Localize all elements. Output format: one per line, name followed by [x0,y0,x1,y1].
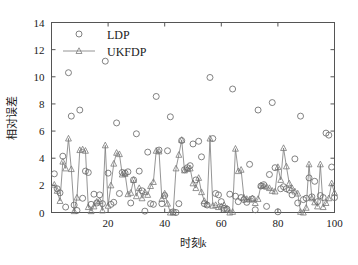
ldp-data-point [266,172,272,178]
legend-label: LDP [107,28,130,42]
ldp-data-point [114,120,120,126]
ldp-data-point [51,171,57,177]
ldp-data-point [116,191,122,197]
x-tick-label: 40 [159,217,171,229]
ldp-data-point [142,208,148,214]
x-tick-label: 100 [326,217,343,229]
y-tick-label: 12 [34,44,45,56]
chart-figure: 02468101214 20406080100 LDPUKFDP 时刻k相对误差 [0,0,358,265]
ldp-data-point [176,201,182,207]
ldp-data-point [306,175,312,181]
ldp-data-point [196,138,202,144]
y-tick-label: 2 [39,179,45,191]
ldp-data-point [230,86,236,92]
ldp-data-point [80,195,86,201]
ldp-data-point [91,191,97,197]
ldp-data-point [235,199,241,205]
relative-error-chart: 02468101214 20406080100 LDPUKFDP 时刻k相对误差 [0,0,358,265]
ldp-data-point [312,178,318,184]
y-tick-label: 8 [39,98,45,110]
ldp-data-point [165,148,171,154]
legend-label: UKFDP [107,45,147,59]
ldp-series-markers [51,58,337,215]
y-tick-label: 6 [39,125,45,137]
ldp-data-point [252,207,258,213]
ldp-data-point [255,107,261,113]
ldp-data-point [145,149,151,155]
ldp-data-point [247,161,253,167]
y-tick-label: 4 [39,152,45,164]
y-axis-title: 相对误差 [5,96,18,140]
y-tick-label: 14 [34,17,46,29]
x-tick-label: 20 [103,217,115,229]
ldp-data-point [227,191,233,197]
ldp-data-point [136,168,142,174]
legend-marker-circle-icon [76,31,82,37]
ldp-data-point [264,203,270,209]
ldp-data-point [269,100,275,106]
y-tick-label: 10 [34,71,46,83]
ldp-data-point [298,113,304,119]
ldp-data-point [292,156,298,162]
ldp-data-point [190,141,196,147]
ldp-data-point [198,154,204,160]
ldp-data-point [167,114,173,120]
ldp-data-point [102,58,108,64]
ldp-data-point [68,113,74,119]
x-tick-label: 80 [272,217,284,229]
ldp-data-point [289,192,295,198]
ldp-data-point [65,70,71,76]
ldp-data-point [295,200,301,206]
ldp-data-point [207,74,213,80]
y-tick-label: 0 [39,207,45,219]
ldp-data-point [105,170,111,176]
chart-legend: LDPUKFDP [63,28,147,59]
ldp-data-point [153,93,159,99]
ukfdp-series-line [54,139,334,213]
ldp-data-point [128,200,134,206]
ldp-data-point [77,107,83,113]
ldp-data-point [133,131,139,137]
x-axis-title: 时刻k [180,236,208,249]
ldp-data-point [329,164,335,170]
ldp-data-point [63,204,69,210]
x-tick-label: 60 [216,217,228,229]
